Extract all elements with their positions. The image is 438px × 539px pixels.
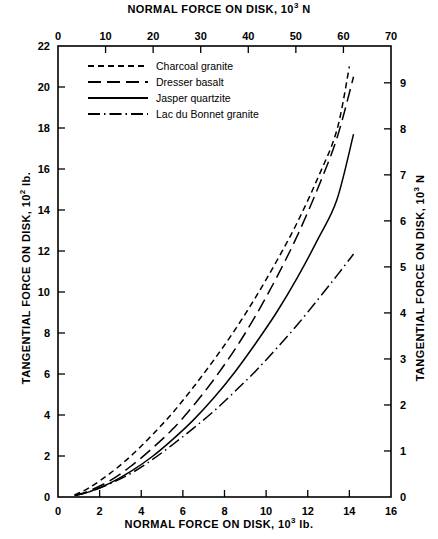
bottom-tick-label: 10 (260, 505, 272, 517)
top-tick-label: 30 (195, 30, 207, 42)
top-tick-label: 70 (385, 30, 397, 42)
left-axis-ticks: 0246810121416182022 (38, 40, 65, 503)
top-axis-ticks: 010203040506070 (55, 30, 397, 53)
right-axis-ticks: 0123456789 (384, 77, 407, 503)
legend-label: Charcoal granite (156, 60, 233, 72)
top-tick-label: 0 (55, 30, 61, 42)
bottom-tick-label: 14 (343, 505, 356, 517)
right-tick-label: 8 (400, 123, 406, 135)
right-tick-label: 7 (400, 169, 406, 181)
legend: Charcoal graniteDresser basaltJasper qua… (88, 60, 259, 120)
bottom-tick-label: 12 (302, 505, 314, 517)
top-tick-label: 60 (337, 30, 349, 42)
right-tick-label: 1 (400, 445, 406, 457)
curve-charcoal-granite (75, 67, 350, 495)
right-tick-label: 5 (400, 261, 406, 273)
legend-label: Jasper quartzite (156, 92, 231, 104)
bottom-tick-label: 8 (221, 505, 227, 517)
bottom-tick-label: 4 (138, 505, 145, 517)
bottom-tick-label: 0 (55, 505, 61, 517)
legend-label: Lac du Bonnet granite (156, 108, 259, 120)
left-tick-label: 18 (38, 122, 50, 134)
left-tick-label: 4 (44, 409, 51, 421)
bottom-tick-label: 6 (180, 505, 186, 517)
left-tick-label: 0 (44, 491, 50, 503)
left-tick-label: 16 (38, 163, 50, 175)
top-tick-label: 40 (242, 30, 254, 42)
curve-jasper-quartzite (75, 134, 354, 495)
right-tick-label: 2 (400, 399, 406, 411)
right-tick-label: 9 (400, 77, 406, 89)
left-tick-label: 8 (44, 327, 50, 339)
data-curves (75, 67, 354, 496)
left-tick-label: 12 (38, 245, 50, 257)
bottom-tick-label: 2 (97, 505, 103, 517)
right-tick-label: 0 (400, 491, 406, 503)
left-tick-label: 2 (44, 450, 50, 462)
top-tick-label: 10 (99, 30, 111, 42)
curve-lac-du-bonnet-granite (75, 254, 354, 495)
legend-label: Dresser basalt (156, 76, 224, 88)
top-tick-label: 50 (290, 30, 302, 42)
top-tick-label: 20 (147, 30, 159, 42)
left-tick-label: 6 (44, 368, 50, 380)
curve-dresser-basalt (75, 77, 354, 496)
right-tick-label: 4 (400, 307, 407, 319)
figure-container: NORMAL FORCE ON DISK, 103 N NORMAL FORCE… (0, 0, 438, 539)
bottom-tick-label: 16 (385, 505, 397, 517)
right-tick-label: 3 (400, 353, 406, 365)
right-tick-label: 6 (400, 215, 406, 227)
left-tick-label: 22 (38, 40, 50, 52)
left-tick-label: 10 (38, 286, 50, 298)
bottom-axis-ticks: 0246810121416 (55, 490, 397, 517)
left-tick-label: 14 (38, 204, 51, 216)
left-tick-label: 20 (38, 81, 50, 93)
plot-area: 0246810121416 010203040506070 0246810121… (0, 0, 438, 539)
